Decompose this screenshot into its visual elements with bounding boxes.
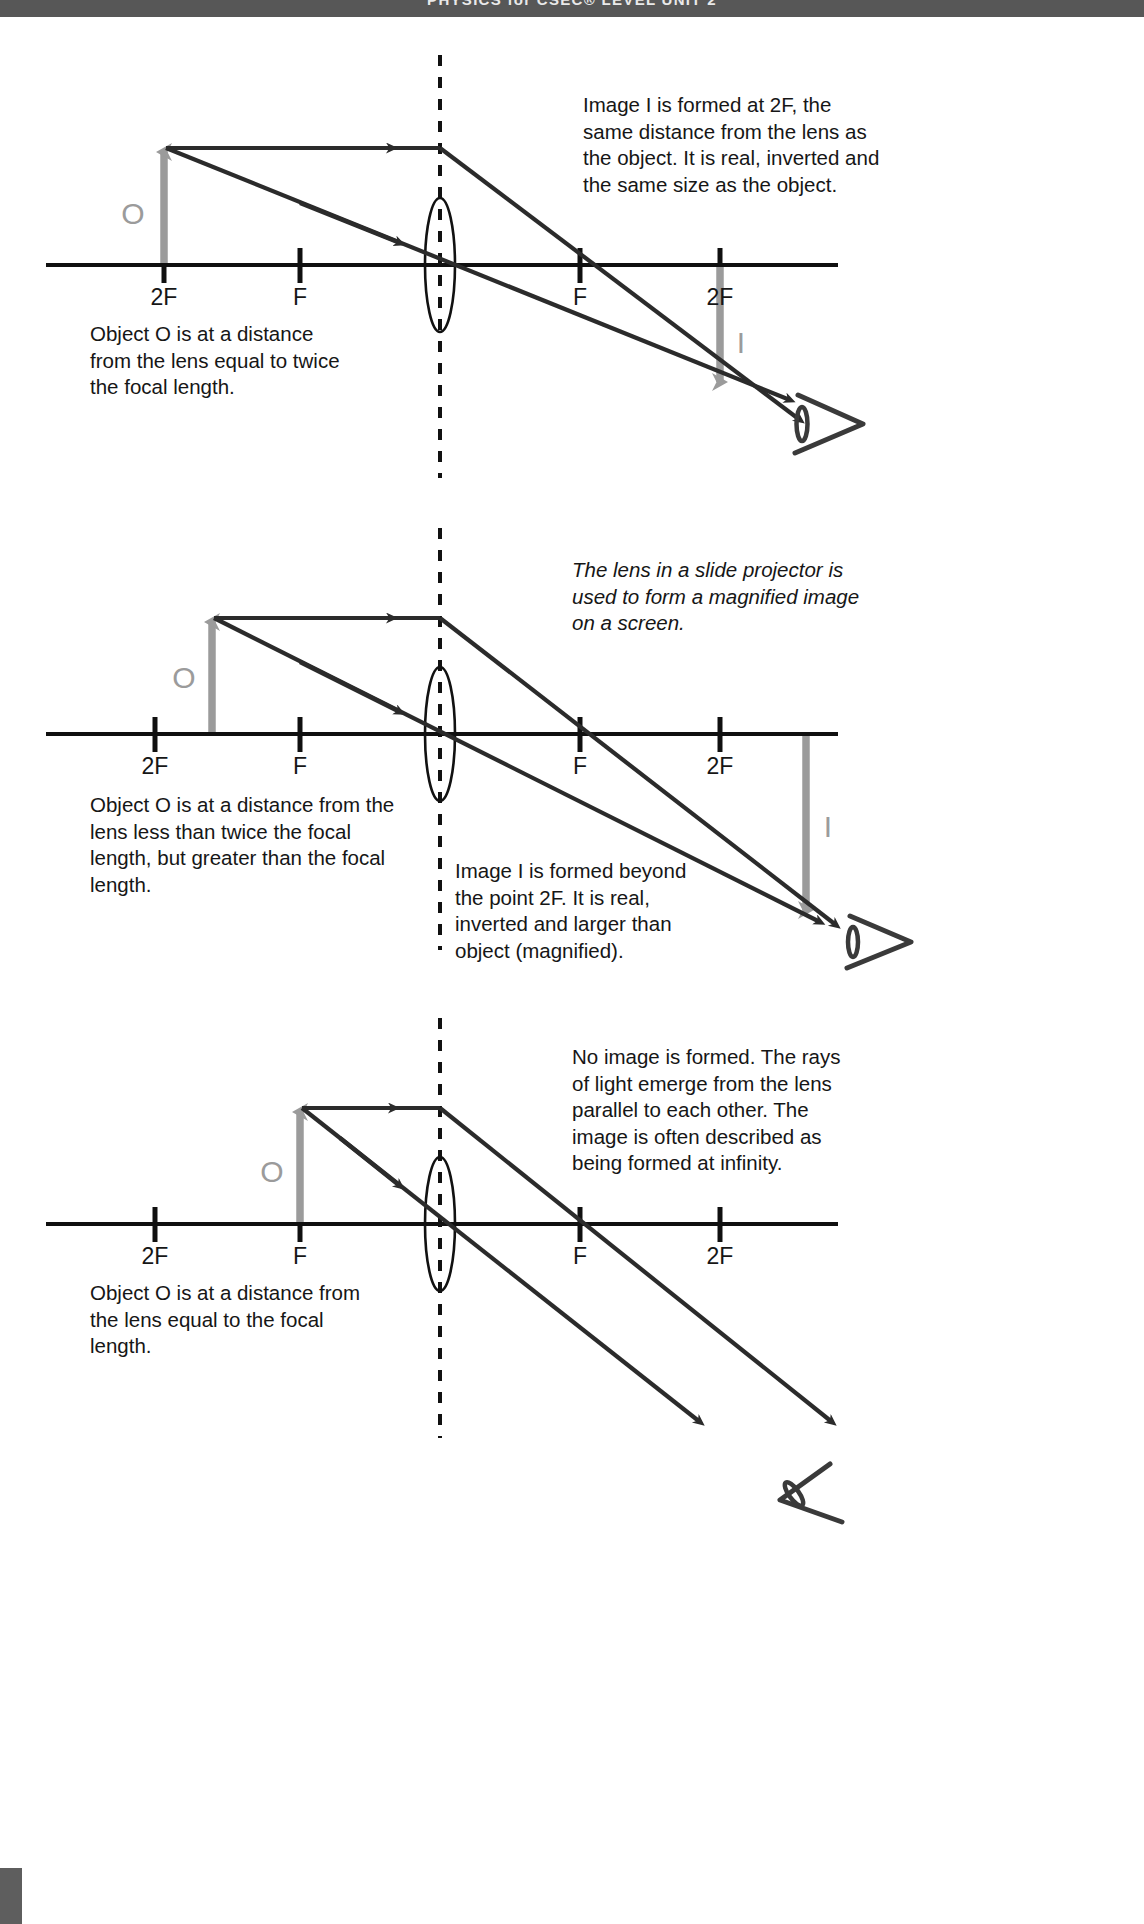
- ray-diagram-object-at-2f: 2F F F 2F O I Image I is formed at 2F, t…: [0, 0, 1144, 510]
- diagram-2-note-right: The lens in a slide projector is used to…: [572, 557, 862, 637]
- diagram-2-note-bottom: Image I is formed beyond the point 2F. I…: [455, 858, 705, 964]
- object-label: O: [121, 197, 144, 230]
- diagram-1-note-right: Image I is formed at 2F, the same distan…: [583, 92, 883, 198]
- object-label: O: [172, 661, 195, 694]
- eye-icon: [847, 916, 911, 968]
- ray-through-centre-marker: [300, 203, 400, 243]
- image-label: I: [824, 810, 832, 843]
- page-footer-tab: [0, 1868, 22, 1924]
- diagram-3-note-left: Object O is at a distance from the lens …: [90, 1280, 390, 1360]
- diagram-3-note-right: No image is formed. The rays of light em…: [572, 1044, 860, 1177]
- axis-label-2f-left: 2F: [142, 1243, 169, 1269]
- axis-label-f-right: F: [573, 1243, 587, 1269]
- axis-label-2f-left: 2F: [142, 753, 169, 779]
- ray-diagram-object-at-f: 2F F F 2F O No image is formed. The rays…: [0, 1010, 1144, 1880]
- ray-through-centre-marker: [340, 1138, 400, 1186]
- diagram-2-note-left: Object O is at a distance from the lens …: [90, 792, 400, 898]
- axis-label-f-right: F: [573, 753, 587, 779]
- image-label: I: [737, 326, 745, 359]
- axis-label-f-left: F: [293, 284, 307, 310]
- diagram-1-canvas: 2F F F 2F O I: [0, 0, 1144, 510]
- axis-label-2f-right: 2F: [707, 1243, 734, 1269]
- object-label: O: [260, 1155, 283, 1188]
- ray-diagram-object-between-f-and-2f: 2F F F 2F O I The lens in a slide projec…: [0, 510, 1144, 1010]
- ray-through-centre-marker: [300, 662, 400, 712]
- diagram-1-note-left: Object O is at a distance from the lens …: [90, 321, 350, 401]
- axis-label-f-left: F: [293, 1243, 307, 1269]
- axis-label-2f-left: 2F: [151, 284, 178, 310]
- axis-label-2f-right: 2F: [707, 284, 734, 310]
- eye-icon: [795, 395, 863, 453]
- axis-label-2f-right: 2F: [707, 753, 734, 779]
- axis-label-f-right: F: [573, 284, 587, 310]
- axis-label-f-left: F: [293, 753, 307, 779]
- eye-icon: [780, 1464, 842, 1522]
